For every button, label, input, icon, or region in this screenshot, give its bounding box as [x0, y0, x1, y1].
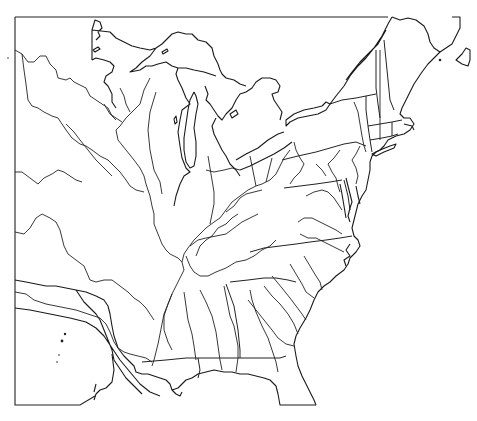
lake-ontario-shoreline [286, 102, 330, 126]
tennessee-river [186, 214, 276, 276]
wabash-river [208, 156, 214, 224]
red-river [15, 292, 152, 362]
texas-shore-lower [94, 354, 114, 400]
gulf-coast-west [108, 306, 192, 396]
james-river [298, 218, 342, 234]
gulf-island-dot [58, 354, 60, 356]
illinois-river [148, 92, 162, 194]
potomac-river [306, 190, 342, 210]
atlantic-coast-south [294, 286, 324, 405]
wisconsin-river [104, 88, 130, 122]
stray-mark [7, 57, 9, 59]
roanoke-river [300, 234, 344, 252]
state-boundary [230, 278, 296, 282]
superior-island [162, 49, 168, 54]
texas-coast [15, 280, 160, 396]
grand-river [206, 168, 240, 172]
yazoo-river [164, 294, 172, 350]
outline-map [0, 0, 477, 421]
delaware-river [352, 146, 360, 184]
maine-island-dot [439, 59, 442, 62]
hudson-river [354, 102, 366, 152]
state-boundary [366, 96, 372, 152]
state-boundary [250, 236, 352, 252]
arkansas-river [15, 214, 154, 320]
state-boundary [240, 356, 286, 358]
atlantic-coast-mid [324, 156, 372, 286]
state-boundary [384, 40, 394, 110]
chesapeake-bay [340, 178, 352, 222]
state-boundary [376, 50, 380, 118]
state-boundary [142, 358, 240, 362]
platte-river [15, 170, 82, 184]
st-lawrence-shoreline [330, 17, 392, 104]
isle-royale [93, 47, 100, 52]
lake-superior-shoreline [92, 20, 226, 108]
state-boundary [368, 120, 402, 126]
maine-border [392, 17, 470, 66]
scioto-river [250, 156, 256, 186]
mississippi-river [116, 78, 184, 366]
cumberland-river [190, 214, 258, 246]
gulf-island-dot [61, 340, 64, 343]
lake-michigan-shoreline [174, 68, 198, 206]
map-frame [15, 17, 388, 405]
allegheny-river [290, 142, 304, 184]
delaware-bay [356, 186, 360, 204]
gulf-coast-florida [192, 370, 316, 405]
atlantic-coast-north [372, 52, 440, 156]
georgian-bay-island [230, 110, 238, 118]
lake-huron-shoreline [205, 78, 282, 176]
cape-fear-river [304, 256, 322, 290]
susquehanna-river [316, 150, 340, 192]
pearl-river [184, 292, 196, 360]
gulf-island-dot [56, 361, 58, 363]
beaver-island [174, 116, 177, 124]
cape-cod [404, 124, 414, 130]
ohio-river [182, 150, 290, 262]
state-boundary [198, 358, 200, 378]
pamlico-sound [344, 244, 350, 266]
des-moines-river [66, 124, 112, 176]
lake-erie-shoreline [236, 132, 292, 170]
gulf-island-dot [64, 333, 66, 335]
chattahoochee-river [250, 290, 278, 372]
missouri-river [15, 50, 144, 192]
ocmulgee-river [248, 300, 294, 346]
